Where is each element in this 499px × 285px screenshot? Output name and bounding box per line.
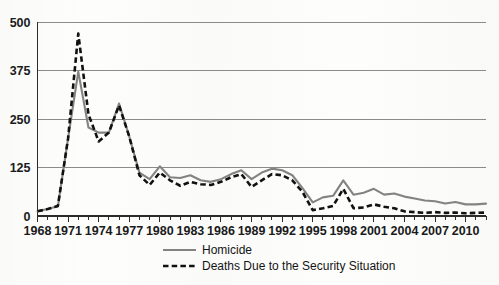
x-tick-label-1989: 1989 <box>238 224 266 238</box>
y-axis-tick-labels: 0125250375500 <box>10 16 31 224</box>
chart-figure: 0125250375500 19681971197419771980198319… <box>0 0 499 285</box>
x-axis-tick-labels: 1968197119741977198019831986198919921995… <box>24 224 480 238</box>
chart-legend: HomicideDeaths Due to the Security Situa… <box>163 243 395 273</box>
x-tick-label-1980: 1980 <box>146 224 174 238</box>
legend-label-security-deaths: Deaths Due to the Security Situation <box>202 259 395 273</box>
x-tick-label-2001: 2001 <box>360 224 388 238</box>
series-line-homicide <box>38 72 487 212</box>
x-tick-label-1995: 1995 <box>299 224 327 238</box>
x-tick-label-1998: 1998 <box>329 224 357 238</box>
x-tick-label-2007: 2007 <box>421 224 449 238</box>
x-tick-label-2010: 2010 <box>452 224 480 238</box>
y-tick-label-375: 375 <box>10 64 31 78</box>
y-tick-label-250: 250 <box>10 113 31 127</box>
y-tick-label-0: 0 <box>24 210 31 224</box>
gridlines-group <box>38 22 487 216</box>
series-line-security-deaths <box>38 34 487 214</box>
x-tick-label-1977: 1977 <box>115 224 143 238</box>
x-tick-label-2004: 2004 <box>391 224 419 238</box>
x-tick-label-1986: 1986 <box>207 224 235 238</box>
line-chart-plot: 0125250375500 19681971197419771980198319… <box>0 0 499 285</box>
y-tick-label-500: 500 <box>10 16 31 30</box>
x-tick-label-1983: 1983 <box>176 224 204 238</box>
x-tick-label-1992: 1992 <box>268 224 296 238</box>
y-tick-label-125: 125 <box>10 161 31 175</box>
x-tick-label-1968: 1968 <box>24 224 52 238</box>
x-axis-tick-marks <box>38 216 487 222</box>
legend-label-homicide: Homicide <box>202 243 252 257</box>
x-tick-label-1974: 1974 <box>85 224 113 238</box>
x-tick-label-1971: 1971 <box>54 224 82 238</box>
data-series-group <box>38 34 487 214</box>
